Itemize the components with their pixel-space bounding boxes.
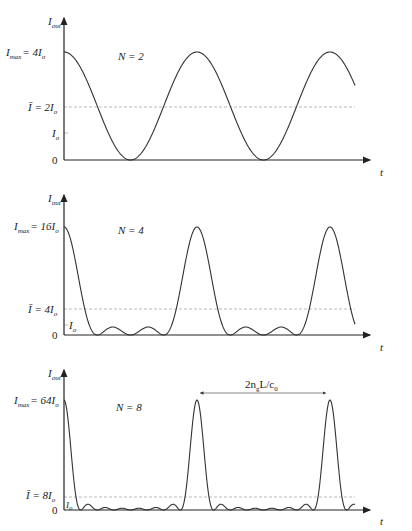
panel-n8: 2ngL/c0 Iout Imax= 64Io Ī = 8Io Io 0 N =… [13,367,384,527]
io-label: Io [68,319,77,334]
n-label: N = 2 [117,50,144,62]
y-axis-label: Iout [47,192,62,207]
zero-label: 0 [52,504,58,516]
imax-label: Imax= 16Io [13,220,59,235]
interference-diagram: Iout Imax= 4Io Ī = 2Io Io 0 N = 2 t Iout… [0,0,412,531]
panel-n2: Iout Imax= 4Io Ī = 2Io Io 0 N = 2 t [5,15,384,178]
imax-label: Imax= 64Io [13,394,59,409]
y-axis-label: Iout [47,15,62,30]
io-label: Io [51,127,60,142]
intensity-curve [64,227,355,335]
n-label: N = 4 [117,224,144,236]
x-axis-label: t [380,341,384,353]
x-axis-label: t [380,166,384,178]
imax-label: Imax= 4Io [5,46,46,61]
period-label: 2ngL/c0 [245,378,278,393]
intensity-curve [64,52,355,160]
mean-label: Ī = 2Io [27,101,58,116]
intensity-curve [64,400,355,510]
x-axis-label: t [380,515,384,527]
zero-label: 0 [52,154,58,166]
n-label: N = 8 [115,401,142,413]
mean-label: Ī = 8Io [25,489,56,504]
y-axis-label: Iout [47,367,62,382]
panel-n4: Iout Imax= 16Io Ī = 4Io Io 0 N = 4 t [13,192,384,353]
mean-label: Ī = 4Io [27,303,58,318]
zero-label: 0 [52,329,58,341]
